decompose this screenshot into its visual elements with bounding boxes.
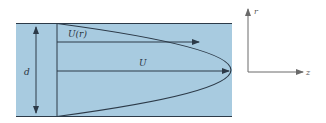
label-u: U <box>139 58 147 68</box>
label-d: d <box>24 67 30 77</box>
velocity-profile-diagram: U(r) U d r z <box>0 0 326 123</box>
axis-r-label: r <box>254 7 259 16</box>
axis-z-label: z <box>305 68 311 77</box>
label-u-r: U(r) <box>68 29 87 39</box>
fluid-region <box>16 23 232 117</box>
